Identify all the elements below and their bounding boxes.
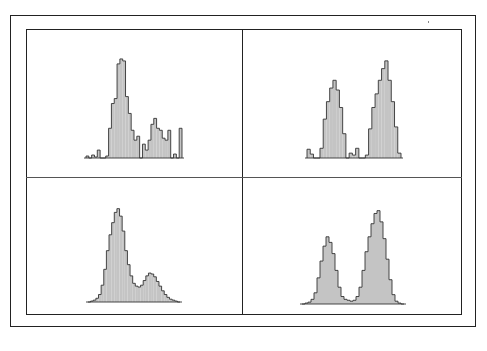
histogram-bar [307, 149, 310, 158]
histogram-top-left [84, 50, 184, 160]
histogram-bar [326, 102, 329, 158]
histogram-bar [114, 212, 117, 302]
histogram-bar [326, 237, 329, 304]
histogram-bar [148, 273, 151, 302]
scan-speck [428, 21, 429, 23]
histogram-bar [372, 107, 375, 158]
histogram-bar [145, 150, 148, 158]
histogram-bar [349, 153, 352, 158]
histogram-bar [389, 280, 392, 304]
histogram-bar [398, 153, 401, 158]
histogram-plot [300, 202, 406, 306]
histogram-bar [374, 213, 377, 304]
histogram-bar [347, 300, 350, 304]
histogram-bar [383, 239, 386, 304]
histogram-bar [117, 209, 120, 302]
histogram-plot [84, 50, 184, 160]
histogram-plot [305, 52, 403, 160]
histogram-bar [353, 300, 356, 304]
histogram-bar [380, 222, 383, 304]
histogram-bar [311, 299, 314, 304]
histogram-bar [365, 252, 368, 304]
histogram-bar [369, 129, 372, 158]
histogram-bar [341, 297, 344, 304]
histogram-bar [378, 80, 381, 158]
vertical-divider [242, 29, 243, 315]
histogram-bar [317, 278, 320, 304]
histogram-bar [371, 224, 374, 304]
histogram-bar [343, 134, 346, 158]
histogram-bar [368, 237, 371, 304]
histogram-bar [338, 287, 341, 304]
histogram-bar [339, 107, 342, 158]
histogram-bar [157, 128, 160, 158]
histogram-bar [323, 119, 326, 158]
histogram-bar [344, 299, 347, 304]
histogram-bar [356, 297, 359, 304]
histogram-bar [114, 99, 117, 158]
histogram-bar [320, 261, 323, 304]
histogram-bottom-right [300, 202, 406, 306]
histogram-bar [151, 274, 154, 302]
histogram-bar [356, 148, 359, 158]
histogram-bottom-left [86, 200, 182, 304]
histogram-bar [377, 211, 380, 304]
histogram-bar [329, 242, 332, 304]
histogram-bar [335, 270, 338, 304]
histogram-bar [320, 148, 323, 158]
histogram-bar [138, 287, 141, 302]
histogram-bar [314, 293, 317, 304]
histogram-bar [333, 80, 336, 158]
histogram-bar [141, 285, 144, 302]
histogram-bar [165, 140, 168, 158]
histogram-bar [134, 140, 137, 158]
histogram-bar [332, 254, 335, 304]
histogram-plot [86, 200, 182, 304]
histogram-bar [391, 102, 394, 158]
histogram-bar [323, 246, 326, 304]
histogram-bar [362, 270, 365, 304]
histogram-bar [375, 94, 378, 158]
histogram-bar [330, 88, 333, 158]
horizontal-divider [26, 177, 462, 178]
histogram-bar [386, 259, 389, 304]
histogram-bar [310, 154, 313, 158]
histogram-bar [385, 61, 388, 158]
histogram-bar [120, 59, 123, 158]
histogram-bar [395, 127, 398, 158]
histogram-top-right [305, 52, 403, 160]
histogram-bar [392, 295, 395, 304]
histogram-bar [135, 286, 138, 302]
histogram-bar [336, 90, 339, 158]
histogram-bar [382, 69, 385, 158]
histogram-bar [388, 80, 391, 158]
histogram-bar [359, 287, 362, 304]
histogram-bar [162, 138, 165, 158]
